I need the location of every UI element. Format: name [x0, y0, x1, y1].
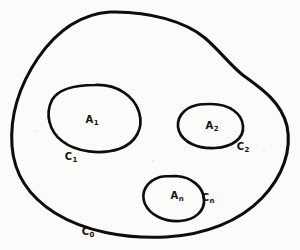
scan-speck	[36, 130, 38, 132]
label-curve-2: C2	[237, 142, 250, 152]
label-curve-1: C1	[65, 152, 78, 162]
label-region-2: A2	[205, 121, 218, 131]
label-curve-n: Cn	[202, 193, 215, 203]
figure-canvas: A1 C1 A2 C2 An Cn C0	[0, 0, 300, 250]
scan-speck	[152, 160, 154, 162]
label-outer-boundary: C0	[82, 227, 95, 237]
label-region-n: An	[170, 191, 183, 201]
label-region-1: A1	[85, 115, 98, 125]
diagram-svg	[0, 0, 300, 250]
scan-speck	[263, 150, 265, 152]
outer-boundary-curve	[12, 12, 289, 237]
